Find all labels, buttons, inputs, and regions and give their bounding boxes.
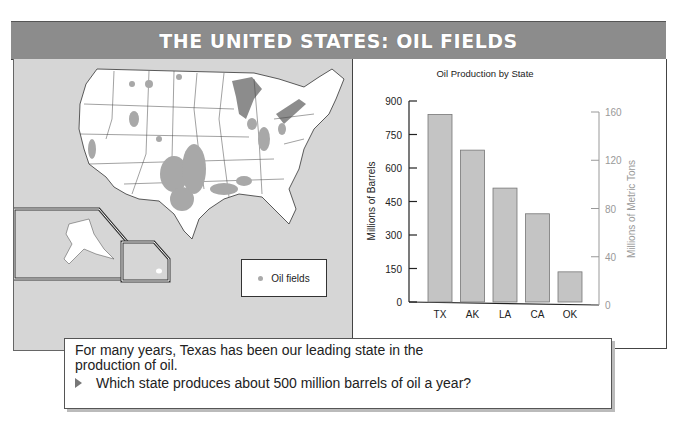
y2-axis-label: Millions of Metric Tons: [626, 160, 637, 258]
y2-axis-ticks: 04080120160: [591, 107, 622, 311]
us-oil-fields-map: Oil fields: [13, 59, 353, 351]
chart-title: Oil Production by State: [436, 68, 533, 79]
y2-tick-label: 160: [605, 107, 622, 118]
y-axis-label: Millions of Barrels: [366, 162, 377, 241]
oil-field-dot-icon: [258, 276, 263, 281]
y-tick-label: 0: [396, 297, 402, 308]
caption-box: For many years, Texas has been our leadi…: [64, 338, 612, 409]
question-text: Which state produces about 500 million b…: [96, 375, 471, 391]
bullet-triangle-icon: [75, 378, 82, 388]
y-tick-label: 900: [385, 96, 402, 107]
y2-tick-label: 80: [605, 204, 617, 215]
caption-text: For many years, Texas has been our leadi…: [75, 343, 475, 373]
oil-production-chart-panel: Oil Production by State 0150300450600750…: [352, 59, 667, 349]
title-banner: THE UNITED STATES: OIL FIELDS: [11, 21, 666, 60]
y2-tick-label: 0: [605, 300, 611, 311]
x-axis: [409, 302, 599, 305]
y-tick-label: 150: [385, 264, 402, 275]
contiguous-us-shape: [79, 69, 344, 239]
x-tick-label: AK: [466, 309, 480, 320]
bar-la: [493, 188, 517, 302]
caption-question: Which state produces about 500 million b…: [75, 375, 471, 391]
hawaii-inset-frame: [122, 242, 169, 281]
x-tick-label: LA: [499, 309, 512, 320]
x-tick-label: CA: [531, 309, 545, 320]
y-tick-label: 300: [385, 230, 402, 241]
y-tick-label: 750: [385, 130, 402, 141]
y-tick-label: 600: [385, 163, 402, 174]
x-tick-label: TX: [434, 309, 447, 320]
bar-ok: [558, 272, 582, 302]
bar-ak: [461, 150, 485, 302]
bars: TXAKLACAOK: [428, 114, 582, 320]
us-map-graphic: [14, 59, 353, 350]
x-tick-label: OK: [563, 309, 578, 320]
alaska-inset-frame: [14, 209, 129, 279]
y2-tick-label: 40: [605, 252, 617, 263]
map-legend: Oil fields: [241, 259, 327, 297]
legend-label: Oil fields: [271, 273, 309, 284]
hawaii-shape: [156, 269, 162, 274]
y2-tick-label: 120: [605, 155, 622, 166]
bar-ca: [526, 214, 550, 302]
bar-chart: Oil Production by State 0150300450600750…: [353, 59, 666, 348]
bar-tx: [428, 114, 452, 302]
y-tick-label: 450: [385, 197, 402, 208]
y-axis-ticks: 0150300450600750900: [385, 96, 417, 308]
page-title: THE UNITED STATES: OIL FIELDS: [159, 30, 517, 52]
